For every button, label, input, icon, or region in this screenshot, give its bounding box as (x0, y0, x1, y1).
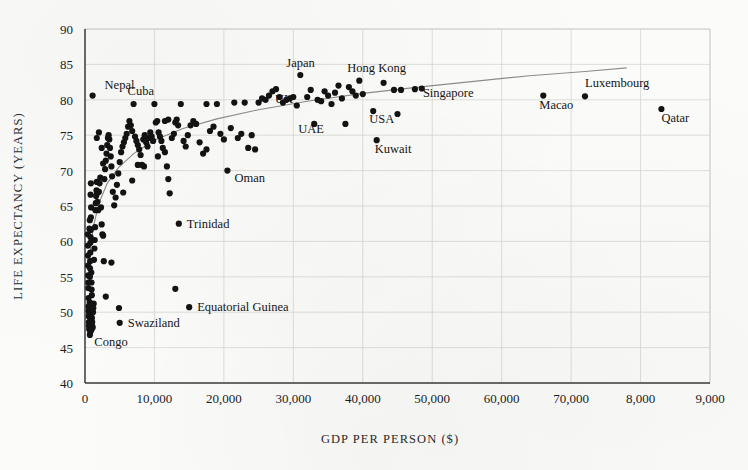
data-point (394, 111, 400, 117)
data-point (245, 145, 251, 151)
x-tick-label: 30,000 (275, 391, 311, 406)
data-point (210, 124, 216, 130)
point-label-qatar: Qatar (661, 111, 690, 125)
point-label-uk: UK (275, 92, 293, 106)
y-tick-label: 85 (60, 57, 73, 72)
y-tick-label: 55 (60, 270, 73, 285)
scatter-chart-svg: NepalCubaJapanHong KongUKSingaporeMacaoL… (0, 0, 748, 470)
data-point (91, 301, 97, 307)
x-tick-label: 9,000 (695, 391, 724, 406)
data-point (158, 138, 164, 144)
data-point (193, 121, 199, 127)
data-point (249, 132, 255, 138)
point-label-oman: Oman (234, 171, 265, 185)
data-point (110, 189, 116, 195)
y-tick-label: 40 (60, 376, 73, 391)
data-point (217, 131, 223, 137)
data-point (111, 202, 117, 208)
data-point (175, 122, 181, 128)
data-point (171, 131, 177, 137)
data-point (242, 100, 248, 106)
data-point (90, 93, 96, 99)
y-tick-labels: 4045505560657075808590 (60, 22, 73, 391)
data-point (391, 87, 397, 93)
data-point (128, 122, 134, 128)
data-point (89, 286, 95, 292)
point-label-japan: Japan (286, 56, 315, 70)
data-point (124, 131, 130, 137)
data-point (109, 173, 115, 179)
data-point (185, 132, 191, 138)
data-point (98, 204, 104, 210)
data-point (88, 279, 94, 285)
data-point (172, 286, 178, 292)
data-point (96, 129, 102, 135)
data-point (106, 136, 112, 142)
data-point (108, 163, 114, 169)
data-point (252, 146, 258, 152)
point-label-hong-kong: Hong Kong (347, 61, 406, 75)
data-point (101, 258, 107, 264)
data-point (103, 294, 109, 300)
data-point (87, 329, 93, 335)
point-label-luxembourg: Luxembourg (585, 76, 650, 90)
data-point (108, 260, 114, 266)
data-point (339, 95, 345, 101)
data-point (381, 80, 387, 86)
data-point (114, 182, 120, 188)
y-tick-label: 80 (60, 93, 73, 108)
data-point (144, 143, 150, 149)
data-point (328, 101, 334, 107)
data-point (332, 90, 338, 96)
point-label-singapore: Singapore (423, 86, 474, 100)
data-point (88, 180, 94, 186)
data-point (136, 146, 142, 152)
data-point (360, 91, 366, 97)
data-point (100, 233, 106, 239)
data-point (221, 136, 227, 142)
data-point (108, 153, 114, 159)
data-point (117, 159, 123, 165)
data-point (203, 101, 209, 107)
data-point (263, 97, 269, 103)
data-point (135, 162, 141, 168)
data-point (92, 237, 98, 243)
x-tick-label: 8,000 (626, 391, 655, 406)
data-point (294, 102, 300, 108)
data-point (129, 128, 135, 134)
point-label-cuba: Cuba (128, 84, 155, 98)
x-tick-label: 10,000 (137, 391, 173, 406)
data-point (107, 145, 113, 151)
data-point (412, 86, 418, 92)
data-point (129, 177, 135, 183)
data-point (97, 180, 103, 186)
data-point (141, 163, 147, 169)
y-tick-label: 65 (60, 199, 73, 214)
data-point (96, 189, 102, 195)
point-label-trinidad: Trinidad (187, 217, 230, 231)
data-point (165, 176, 171, 182)
data-point (87, 217, 93, 223)
data-point (131, 101, 137, 107)
data-point (162, 149, 168, 155)
data-point (94, 135, 100, 141)
data-point (99, 221, 105, 227)
data-point (353, 93, 359, 99)
data-point (155, 153, 161, 159)
data-point (165, 117, 171, 123)
data-point (89, 292, 95, 298)
data-point (582, 93, 588, 99)
y-tick-label: 90 (60, 22, 73, 37)
data-point (115, 170, 121, 176)
x-tick-label: 70,000 (553, 391, 589, 406)
data-point (318, 98, 324, 104)
y-axis-title: LIFE EXPECTANCY (YEARS) (11, 112, 25, 299)
data-point (304, 94, 310, 100)
data-point (154, 118, 160, 124)
point-label-congo: Congo (94, 335, 127, 349)
x-tick-label: 50,000 (414, 391, 450, 406)
point-label-equatorial-guinea: Equatorial Guinea (197, 300, 289, 314)
data-point (151, 101, 157, 107)
data-point (181, 138, 187, 144)
data-point (88, 270, 94, 276)
